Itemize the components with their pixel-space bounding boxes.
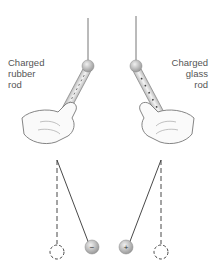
pendulum-diagram: − +	[0, 0, 216, 269]
rest-position-ball	[154, 245, 168, 259]
rod-tip-ball	[82, 60, 94, 72]
right-rod-assembly	[130, 16, 194, 144]
deflected-thread	[129, 160, 161, 244]
left-rod-assembly	[22, 18, 94, 144]
right-hand-icon	[140, 102, 194, 143]
rod-tip-ball	[130, 60, 142, 72]
deflected-thread	[57, 160, 89, 244]
rest-position-ball	[50, 245, 64, 259]
left-hand-icon	[22, 102, 76, 143]
negative-charge-sign: −	[90, 243, 95, 252]
positive-charge-sign: +	[124, 243, 129, 252]
right-pendulum: +	[119, 160, 168, 259]
left-pendulum: −	[50, 160, 99, 259]
